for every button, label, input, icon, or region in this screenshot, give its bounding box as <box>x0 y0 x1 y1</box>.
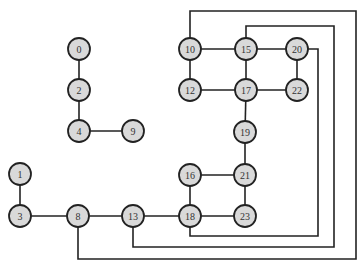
node-label: 10 <box>185 44 195 55</box>
node-label: 4 <box>77 126 82 137</box>
node-layer: 0249138131823162119101520121722 <box>9 38 308 227</box>
node-label: 15 <box>241 44 251 55</box>
node-8: 8 <box>67 205 89 227</box>
node-21: 21 <box>234 164 256 186</box>
node-12: 12 <box>179 79 201 101</box>
node-15: 15 <box>235 38 257 60</box>
node-20: 20 <box>286 38 308 60</box>
node-9: 9 <box>122 120 144 142</box>
node-label: 19 <box>240 127 250 138</box>
node-4: 4 <box>68 120 90 142</box>
node-2: 2 <box>68 79 90 101</box>
node-label: 16 <box>185 170 195 181</box>
edge-20-18 <box>190 49 318 236</box>
node-label: 13 <box>128 211 138 222</box>
node-label: 18 <box>185 211 195 222</box>
node-label: 8 <box>76 211 81 222</box>
node-10: 10 <box>179 38 201 60</box>
node-16: 16 <box>179 164 201 186</box>
node-label: 20 <box>292 44 302 55</box>
node-1: 1 <box>9 163 31 185</box>
node-label: 23 <box>240 211 250 222</box>
node-label: 3 <box>18 211 23 222</box>
node-label: 2 <box>77 85 82 96</box>
node-label: 22 <box>292 85 302 96</box>
graph-diagram: 0249138131823162119101520121722 <box>0 0 364 266</box>
node-3: 3 <box>9 205 31 227</box>
node-label: 12 <box>185 85 195 96</box>
node-13: 13 <box>122 205 144 227</box>
node-19: 19 <box>234 121 256 143</box>
node-23: 23 <box>234 205 256 227</box>
node-label: 1 <box>18 169 23 180</box>
node-17: 17 <box>235 79 257 101</box>
node-22: 22 <box>286 79 308 101</box>
node-label: 21 <box>240 170 250 181</box>
node-0: 0 <box>68 38 90 60</box>
node-label: 9 <box>131 126 136 137</box>
node-label: 17 <box>241 85 251 96</box>
node-18: 18 <box>179 205 201 227</box>
node-label: 0 <box>77 44 82 55</box>
